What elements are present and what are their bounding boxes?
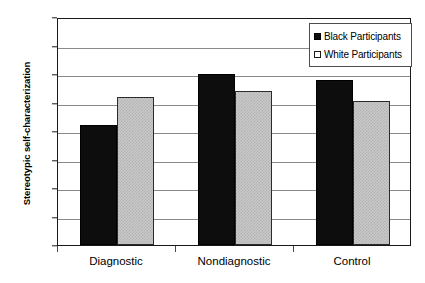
x-tick-mark <box>175 246 176 252</box>
legend-item: White Participants <box>314 45 407 63</box>
legend: Black Participants White Participants <box>309 23 412 67</box>
bar-black-participants <box>198 74 235 245</box>
legend-swatch-white-icon <box>314 51 321 58</box>
legend-label-black: Black Participants <box>324 31 401 42</box>
y-tick-mark <box>52 131 57 132</box>
y-tick-mark <box>52 74 57 75</box>
bar-white-participants <box>235 91 272 245</box>
bar-black-participants <box>316 80 353 245</box>
y-tick-mark <box>52 103 57 104</box>
y-tick-mark <box>52 188 57 189</box>
bar-chart: Stereotypic self-characterization 051015… <box>0 0 425 283</box>
y-tick-mark <box>52 217 57 218</box>
legend-swatch-black-icon <box>314 33 321 40</box>
y-tick-mark <box>52 160 57 161</box>
bar-black-participants <box>80 125 117 245</box>
legend-label-white: White Participants <box>324 49 402 60</box>
bar-white-participants <box>353 101 390 245</box>
y-tick-mark <box>52 46 57 47</box>
x-tick-mark <box>293 246 294 252</box>
y-axis-title: Stereotypic self-characterization <box>21 24 32 244</box>
bar-white-participants <box>117 97 154 245</box>
x-category-label: Nondiagnostic <box>198 255 271 267</box>
x-category-label: Diagnostic <box>89 255 143 267</box>
x-tick-mark <box>57 246 58 252</box>
y-tick-mark <box>52 17 57 18</box>
x-category-label: Control <box>333 255 370 267</box>
legend-item: Black Participants <box>314 27 407 45</box>
